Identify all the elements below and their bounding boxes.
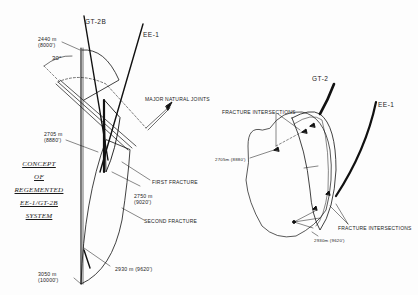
title-line-4: EE-1/GT-2B [14,197,64,210]
gt2b-label: GT-2B [85,19,106,25]
title-line-3: REGEMENTED [14,184,64,197]
depth-2705-ft: (8880') [44,137,61,143]
diagram-title: CONCEPT OF REGEMENTED EE-1/GT-2B SYSTEM [14,158,64,223]
fracture-intersections-bottom-label: FRACTURE INTERSECTIONS [338,225,412,231]
depth-3050-ft: (10000') [38,277,58,283]
title-line-2: OF [14,171,64,184]
title-line-5: SYSTEM [14,210,64,223]
ee1-label-right: EE-1 [378,102,394,108]
major-natural-joints-label: MAJOR NATURAL JOINTS [145,96,210,102]
depth-2750-ft: (9020') [134,199,151,205]
diagram-drawing [0,0,418,295]
angle-label: 30° [52,55,62,61]
second-fracture-label: SECOND FRACTURE [144,218,197,224]
depth-2705-right: 2705m (8880') [215,157,246,163]
diagram-canvas: GT-2B EE-1 2440 m (8000') 30° MAJOR NATU… [0,0,418,295]
first-fracture-label: FIRST FRACTURE [152,179,198,185]
fracture-intersections-top-label: FRACTURE INTERSECTIONS [222,109,296,115]
depth-2930-right: 2930m (9620') [314,238,345,244]
ee1-label-left: EE-1 [143,32,159,38]
depth-2440-ft: (8000') [38,42,55,48]
gt2-label: GT-2 [312,76,328,82]
ee1-wellbore [100,24,143,172]
title-line-1: CONCEPT [14,158,64,171]
depth-2930-label: 2930 m (9620') [115,266,153,272]
